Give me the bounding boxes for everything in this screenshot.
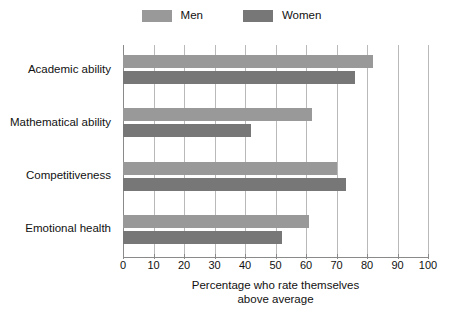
bar-women-competitiveness [123, 178, 346, 191]
bar-men-emotional-health [123, 215, 309, 228]
x-tick-label-30: 30 [208, 260, 220, 271]
bar-men-academic-ability [123, 55, 373, 68]
bar-chart: Men Women Academic abilityMathematical a… [0, 0, 463, 314]
x-tick-label-40: 40 [239, 260, 251, 271]
category-axis-labels: Academic abilityMathematical abilityComp… [0, 45, 118, 258]
x-axis-title: Percentage who rate themselvesabove aver… [123, 278, 428, 306]
category-label-mathematical-ability: Mathematical ability [10, 117, 111, 129]
legend-label-women: Women [282, 10, 321, 22]
x-tick-label-60: 60 [300, 260, 312, 271]
category-label-emotional-health: Emotional health [25, 223, 111, 235]
x-axis-title-line-1: Percentage who rate themselves [123, 278, 428, 292]
bar-women-emotional-health [123, 231, 282, 244]
x-tick-label-90: 90 [391, 260, 403, 271]
x-axis-tick-labels: 0102030405060708090100 [123, 260, 428, 276]
category-label-competitiveness: Competitiveness [26, 170, 111, 182]
bar-women-academic-ability [123, 71, 355, 84]
bar-men-mathematical-ability [123, 108, 312, 121]
legend-item-men: Men [142, 10, 203, 22]
legend-swatch-men [142, 10, 172, 22]
x-tick-label-70: 70 [330, 260, 342, 271]
legend-item-women: Women [243, 10, 321, 22]
x-tick-label-80: 80 [361, 260, 373, 271]
category-label-academic-ability: Academic ability [28, 64, 111, 76]
plot-area [123, 45, 428, 258]
x-tick-label-50: 50 [269, 260, 281, 271]
x-tick-label-10: 10 [147, 260, 159, 271]
bar-women-mathematical-ability [123, 124, 251, 137]
bars [123, 45, 428, 258]
bar-men-competitiveness [123, 162, 337, 175]
gridline-100 [428, 45, 429, 258]
x-tick-label-100: 100 [419, 260, 437, 271]
chart-legend: Men Women [0, 10, 463, 22]
x-tick-label-20: 20 [178, 260, 190, 271]
x-axis-title-line-2: above average [123, 292, 428, 306]
plot-grid [123, 45, 428, 258]
x-tick-label-0: 0 [120, 260, 126, 271]
legend-swatch-women [243, 10, 273, 22]
legend-label-men: Men [181, 10, 203, 22]
